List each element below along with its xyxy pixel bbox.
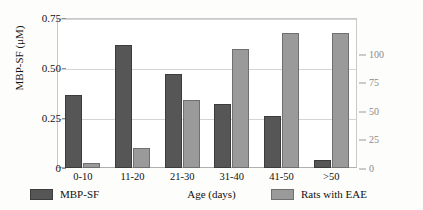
bar-mbp-sf <box>264 116 281 168</box>
bar-group <box>207 19 257 168</box>
legend-item-rats-with-eae: Rats with EAE <box>271 188 367 200</box>
legend-swatch-rats-with-eae <box>271 189 294 200</box>
right-tick-75: 75 <box>369 77 409 88</box>
right-tick-50: 50 <box>369 106 409 117</box>
bar-group <box>58 19 108 168</box>
bar-rats-with-eae <box>183 100 200 168</box>
bar-mbp-sf <box>165 74 182 168</box>
category-label: >50 <box>306 171 356 182</box>
bar-rats-with-eae <box>83 163 100 168</box>
bar-mbp-sf <box>314 160 331 168</box>
legend-item-mbp-sf: MBP-SF <box>30 188 99 200</box>
bar-chart: MBP-SF (μM) Rats with EAE (%) 0.75 0.50 … <box>0 0 423 210</box>
legend-swatch-mbp-sf <box>30 189 53 200</box>
left-tick-0: 0 <box>11 162 61 174</box>
bar-mbp-sf <box>65 95 82 169</box>
legend: Age (days) MBP-SF Rats with EAE <box>0 188 423 206</box>
category-label: 0-10 <box>58 171 108 182</box>
category-label: 11-20 <box>108 171 158 182</box>
legend-label-mbp-sf: MBP-SF <box>60 188 99 200</box>
bar-rats-with-eae <box>282 33 299 168</box>
bar-rats-with-eae <box>232 49 249 168</box>
right-tick-100: 100 <box>369 49 409 60</box>
right-tick-25: 25 <box>369 134 409 145</box>
left-tick-075: 0.75 <box>11 12 61 24</box>
bar-mbp-sf <box>214 104 231 168</box>
bar-group <box>108 19 158 168</box>
category-label: 21-30 <box>157 171 207 182</box>
bar-group <box>257 19 307 168</box>
left-tick-050: 0.50 <box>11 62 61 74</box>
category-label: 41-50 <box>257 171 307 182</box>
bar-groups <box>58 19 356 168</box>
category-labels: 0-1011-2021-3031-4041-50>50 <box>58 171 356 182</box>
right-tick-0: 0 <box>369 163 409 174</box>
bar-group <box>157 19 207 168</box>
bar-rats-with-eae <box>332 33 349 168</box>
category-label: 31-40 <box>207 171 257 182</box>
bar-group <box>306 19 356 168</box>
bar-mbp-sf <box>115 45 132 168</box>
left-tick-025: 0.25 <box>11 112 61 124</box>
bar-rats-with-eae <box>133 148 150 168</box>
legend-label-rats-with-eae: Rats with EAE <box>301 188 367 200</box>
